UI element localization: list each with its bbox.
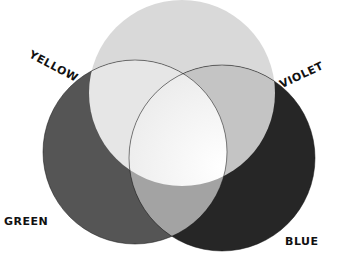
venn-diagram — [0, 0, 338, 255]
label-green: GREEN — [4, 215, 48, 228]
label-blue: BLUE — [285, 235, 318, 248]
